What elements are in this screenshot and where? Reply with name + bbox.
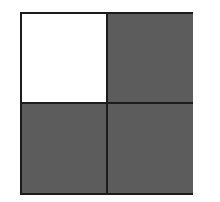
- cell-top-right-shaded: [108, 14, 193, 104]
- cell-bottom-left-shaded: [22, 104, 108, 193]
- cell-bottom-right-shaded: [108, 104, 193, 193]
- diagram-canvas: [0, 0, 220, 202]
- cell-top-left-unshaded: [22, 14, 108, 104]
- fraction-square-grid: [20, 12, 193, 195]
